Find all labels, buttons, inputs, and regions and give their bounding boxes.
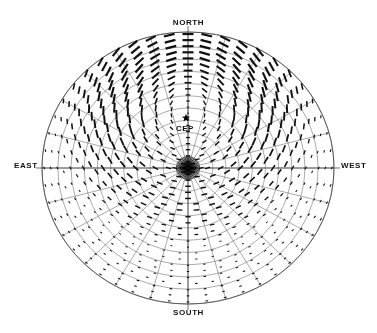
polar-vector-field-canvas [0,0,377,333]
all-sky-polarization-figure: NORTH SOUTH EAST WEST CEP [0,0,377,333]
cardinal-label-east: EAST [14,161,38,171]
cardinal-label-south: SOUTH [0,308,377,318]
cardinal-label-west: WEST [341,161,367,171]
cardinal-label-north: NORTH [0,18,377,28]
cep-label: CEP [176,124,194,133]
